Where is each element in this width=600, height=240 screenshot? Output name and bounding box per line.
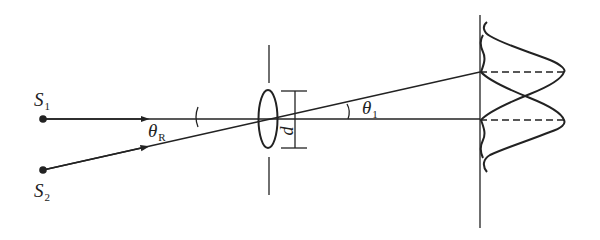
label-theta-1-subscript: 1	[372, 108, 378, 120]
ray-s2-arrow	[43, 147, 146, 170]
label-s2: S2	[34, 181, 50, 203]
label-s2-subscript: 2	[45, 191, 51, 203]
label-aperture-d: d	[278, 127, 296, 136]
label-theta-r: θR	[148, 121, 166, 143]
label-d: d	[277, 127, 297, 136]
angle-arc-theta-r	[196, 107, 198, 127]
label-s1-symbol: S	[34, 89, 44, 110]
source-dot-s2	[39, 166, 47, 174]
source-dot-s1	[39, 115, 47, 123]
label-s1-subscript: 1	[45, 100, 51, 112]
label-s1: S1	[34, 90, 50, 112]
label-theta-r-symbol: θ	[148, 120, 157, 141]
intensity-curve-upper	[481, 22, 565, 120]
rayleigh-diagram	[0, 0, 600, 240]
label-s2-symbol: S	[34, 180, 44, 201]
label-theta-r-subscript: R	[158, 131, 165, 143]
angle-arc-theta-1	[347, 104, 349, 119]
label-theta-1: θ1	[362, 98, 378, 120]
label-theta-1-symbol: θ	[362, 97, 371, 118]
intensity-curve-lower	[481, 72, 565, 172]
